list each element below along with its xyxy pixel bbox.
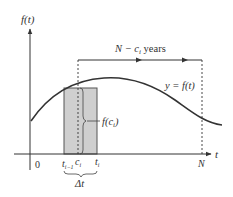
origin-label: 0 [35, 159, 40, 170]
y-axis-label: f(t) [21, 13, 35, 26]
width-brace [64, 171, 97, 177]
tick-label-t-i: ti [95, 156, 100, 168]
delta-t-label: Δt [74, 178, 85, 189]
span-arrow-2 [182, 58, 188, 63]
tick-label-t-prev: ti−1 [62, 158, 74, 170]
x-axis-label: t [215, 148, 219, 160]
span-arrow-1 [136, 58, 142, 63]
curve-label: y = f(t) [164, 80, 195, 92]
tick-label-c-i: ci [75, 156, 81, 168]
rect-height-label: f(ci) [102, 116, 119, 129]
span-label: N − ci years [114, 43, 166, 56]
tick-label-N: N [197, 158, 206, 169]
diagram-canvas: f(t) t 0 N − ci years y = f(t) f(ci) ti−… [0, 0, 233, 197]
